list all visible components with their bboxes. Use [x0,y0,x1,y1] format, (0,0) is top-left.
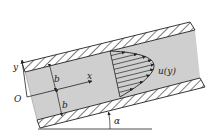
half-width-bottom-label: b [62,100,68,110]
x-axis-label: x [87,71,92,81]
angle-label: α [114,116,120,126]
inclined-channel-diagram: y x O b b u(y) α [0,0,224,140]
angle-arc [109,112,111,129]
velocity-profile-label: u(y) [158,66,176,76]
y-axis-label: y [12,62,19,72]
half-width-top-label: b [54,74,60,84]
origin-label: O [14,94,22,104]
